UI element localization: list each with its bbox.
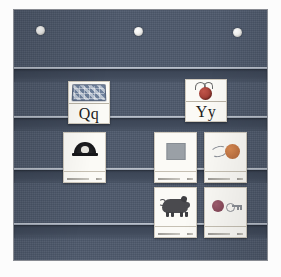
key-tooth-icon xyxy=(237,207,239,210)
key-tooth-icon xyxy=(240,207,242,210)
pig-leg-icon xyxy=(166,212,169,217)
card-artwork-dome xyxy=(64,133,105,172)
orange-circle-icon xyxy=(225,144,240,159)
card-picture-umbrella[interactable] xyxy=(63,132,106,183)
card-picture-orange[interactable] xyxy=(204,132,247,183)
grommet-left xyxy=(36,26,45,35)
quilt-icon xyxy=(72,84,107,101)
pig-leg-icon xyxy=(171,212,174,217)
card-caption: Qq xyxy=(69,104,109,123)
card-picture-pig[interactable] xyxy=(154,187,197,238)
pocket-chart: Qq Yy xyxy=(14,10,267,260)
card-footer xyxy=(64,171,105,182)
card-artwork-orange xyxy=(205,133,246,172)
card-label-text xyxy=(208,233,230,235)
ball-icon xyxy=(212,200,224,212)
card-artwork-yoyo xyxy=(186,80,226,102)
card-artwork-pig xyxy=(155,188,196,227)
card-picture-key[interactable] xyxy=(204,187,247,238)
card-label-text xyxy=(208,178,230,180)
card-label-mark xyxy=(187,233,193,235)
card-letter-y[interactable]: Yy xyxy=(185,79,227,122)
card-footer xyxy=(205,171,246,182)
card-caption: Yy xyxy=(186,102,226,121)
card-label-text xyxy=(158,233,180,235)
yoyo-icon xyxy=(199,87,212,100)
grommet-center xyxy=(134,27,143,36)
card-label-mark xyxy=(96,178,102,180)
card-artwork-quilt xyxy=(69,82,109,104)
card-letter-q[interactable]: Qq xyxy=(68,81,110,124)
grommet-right xyxy=(233,28,242,37)
scene-root: Qq Yy xyxy=(0,0,281,277)
pocket-shelf xyxy=(14,118,267,131)
card-picture-square[interactable] xyxy=(154,132,197,183)
card-label-mark xyxy=(237,178,243,180)
pig-leg-icon xyxy=(180,212,183,217)
card-label-mark xyxy=(187,178,193,180)
card-footer xyxy=(155,226,196,237)
card-artwork-key xyxy=(205,188,246,227)
dome-base-icon xyxy=(72,153,98,156)
card-footer xyxy=(205,226,246,237)
pig-leg-icon xyxy=(185,212,188,217)
pig-snout-icon xyxy=(184,202,190,208)
card-artwork-square xyxy=(155,133,196,172)
card-footer xyxy=(155,171,196,182)
dome-inner-icon xyxy=(81,146,89,153)
pocket-shelf xyxy=(14,69,267,82)
card-label-text xyxy=(67,178,89,180)
card-label-text xyxy=(158,178,180,180)
gray-square-icon xyxy=(166,143,185,160)
card-label-mark xyxy=(237,233,243,235)
